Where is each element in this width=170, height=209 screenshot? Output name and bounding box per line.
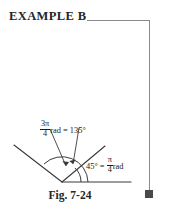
degrees-value-135: 135° bbox=[70, 126, 86, 135]
unit-rad-45: rad bbox=[113, 162, 124, 171]
header-rule-horizontal bbox=[87, 20, 150, 21]
label-angle-135: 3π 4 rad = 135° bbox=[40, 120, 86, 139]
figure-page: EXAMPLE B 3π 4 rad = 135° bbox=[0, 0, 170, 209]
degrees-value-45: 45° bbox=[86, 162, 98, 171]
equals-sign-45: = bbox=[100, 162, 105, 171]
fraction-3pi-over-4: 3π 4 bbox=[40, 120, 50, 139]
unit-rad-135: rad bbox=[50, 126, 61, 135]
equals-sign-135: = bbox=[63, 126, 68, 135]
figure-caption: Fig. 7-24 bbox=[0, 189, 140, 201]
angle-diagram bbox=[0, 100, 150, 195]
fraction-denominator: 4 bbox=[40, 130, 50, 138]
arrowhead-45-icon bbox=[69, 160, 75, 164]
ray-135-degrees bbox=[14, 145, 62, 182]
arrowhead-135-icon bbox=[62, 161, 69, 166]
fraction-numerator: 3π bbox=[40, 120, 50, 128]
label-angle-45: 45° = π 4 rad bbox=[86, 156, 124, 175]
page-title: EXAMPLE B bbox=[9, 9, 87, 24]
